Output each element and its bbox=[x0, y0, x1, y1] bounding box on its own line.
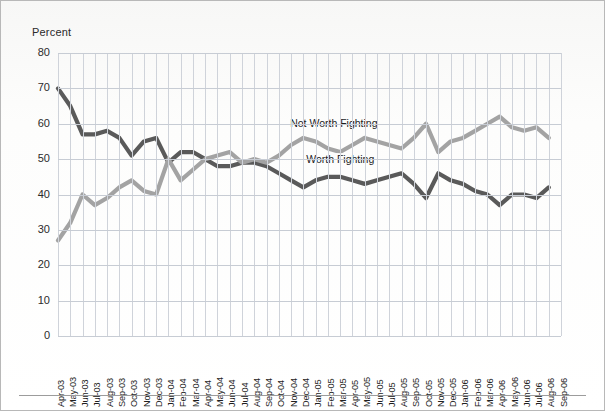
y-axis-title: Percent bbox=[32, 26, 71, 38]
x-axis-tick-label: Jun-03 bbox=[80, 380, 90, 408]
x-axis-tick-label: Mar-05 bbox=[338, 378, 348, 407]
x-axis-tick-label: Nov-05 bbox=[436, 378, 446, 407]
y-axis-tick-label: 40 bbox=[38, 188, 50, 200]
x-axis-tick-label: Sep-03 bbox=[117, 378, 127, 407]
gridline-horizontal bbox=[58, 88, 561, 89]
y-axis-tick-label: 0 bbox=[44, 329, 50, 341]
gridline-horizontal bbox=[58, 301, 561, 302]
x-axis-tick-label: Jan-05 bbox=[313, 380, 323, 408]
x-axis-tick-label: Dec-04 bbox=[301, 378, 311, 407]
gridline-horizontal bbox=[58, 195, 561, 196]
y-axis-tick-label: 50 bbox=[38, 152, 50, 164]
x-axis-tick-label: Apr-05 bbox=[350, 380, 360, 407]
x-axis-tick-label: Aug-06 bbox=[546, 378, 556, 407]
x-axis-tick-label: Feb-06 bbox=[473, 378, 483, 407]
x-axis-tick-label: Aug-03 bbox=[105, 378, 115, 407]
y-axis-tick-label: 60 bbox=[38, 117, 50, 129]
x-axis-tick-label: May-03 bbox=[68, 377, 78, 407]
y-axis-tick-label: 20 bbox=[38, 258, 50, 270]
x-axis-tick-label: Oct-03 bbox=[129, 380, 139, 407]
x-axis-tick-label: Apr-04 bbox=[203, 380, 213, 407]
x-axis-tick-label: Jun-06 bbox=[522, 380, 532, 408]
footer-rule bbox=[19, 395, 586, 396]
gridline-horizontal bbox=[58, 53, 561, 54]
x-axis-tick-label: May-06 bbox=[510, 377, 520, 407]
gridline-horizontal bbox=[58, 124, 561, 125]
y-axis-tick-label: 10 bbox=[38, 294, 50, 306]
x-axis-tick-label: Oct-04 bbox=[276, 380, 286, 407]
x-axis-tick-label: Mar-06 bbox=[485, 378, 495, 407]
x-axis-tick-label: Feb-04 bbox=[178, 378, 188, 407]
x-axis-tick-label: Sep-04 bbox=[264, 378, 274, 407]
x-axis-tick-label: Jun-04 bbox=[227, 380, 237, 408]
x-axis-tick-label: Nov-04 bbox=[289, 378, 299, 407]
x-axis-tick-label: Aug-04 bbox=[252, 378, 262, 407]
x-axis-tick-label: Mar-04 bbox=[191, 378, 201, 407]
x-axis-tick-label: Oct-05 bbox=[424, 380, 434, 407]
gridline-horizontal bbox=[58, 265, 561, 266]
plot-area: Not Worth Fighting Worth Fighting bbox=[58, 53, 561, 336]
x-axis-tick-label: Dec-05 bbox=[448, 378, 458, 407]
y-axis-tick-label: 70 bbox=[38, 81, 50, 93]
x-axis-tick-label: Apr-06 bbox=[497, 380, 507, 407]
x-axis-tick-label: Sep-06 bbox=[559, 378, 569, 407]
gridline-horizontal bbox=[58, 336, 561, 337]
gridline-vertical bbox=[561, 53, 562, 336]
x-axis-tick-label: Aug-05 bbox=[399, 378, 409, 407]
x-axis-tick-labels: Apr-03May-03Jun-03Jul-03Aug-03Sep-03Oct-… bbox=[58, 339, 561, 407]
x-axis-tick-label: Jan-04 bbox=[166, 380, 176, 408]
x-axis-tick-label: Feb-05 bbox=[326, 378, 336, 407]
y-axis-tick-label: 30 bbox=[38, 223, 50, 235]
y-axis-tick-labels: 80706050403020100 bbox=[1, 53, 58, 336]
x-axis-tick-label: Nov-03 bbox=[142, 378, 152, 407]
x-axis-tick-label: Jan-06 bbox=[460, 380, 470, 408]
chart-figure: Percent 80706050403020100 Not Worth Figh… bbox=[0, 0, 605, 411]
x-axis-tick-label: Sep-05 bbox=[411, 378, 421, 407]
y-axis-tick-label: 80 bbox=[38, 46, 50, 58]
gridline-horizontal bbox=[58, 230, 561, 231]
x-axis-tick-label: May-05 bbox=[362, 377, 372, 407]
gridline-horizontal bbox=[58, 159, 561, 160]
x-axis-tick-label: Dec-03 bbox=[154, 378, 164, 407]
x-axis-tick-label: Apr-03 bbox=[56, 380, 66, 407]
x-axis-tick-label: Jun-05 bbox=[375, 380, 385, 408]
x-axis-tick-label: May-04 bbox=[215, 377, 225, 407]
